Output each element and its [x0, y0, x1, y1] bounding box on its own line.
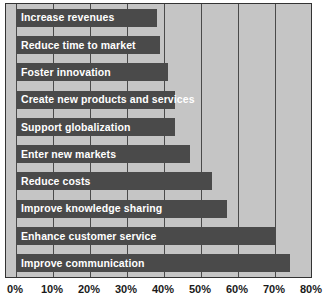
x-tick-label: 60% [226, 281, 248, 298]
x-tick-label: 10% [41, 281, 63, 298]
bar: Enter new markets [16, 145, 190, 163]
bar: Enhance customer service [16, 227, 275, 245]
bar: Foster innovation [16, 63, 168, 81]
x-tick-label: 30% [115, 281, 137, 298]
bar-row: Improve knowledge sharing [6, 195, 311, 222]
bar: Reduce time to market [16, 36, 160, 54]
bar: Improve knowledge sharing [16, 200, 227, 218]
bar-row: Reduce time to market [6, 31, 311, 58]
bar-label: Reduce time to market [21, 40, 136, 51]
bar-label: Enter new markets [21, 149, 116, 160]
bar-row: Enter new markets [6, 141, 311, 168]
bar-label: Increase revenues [21, 12, 114, 23]
bar-label: Reduce costs [21, 176, 90, 187]
bar-chart: Increase revenuesReduce time to marketFo… [0, 0, 324, 298]
bar-label: Support globalization [21, 122, 130, 133]
bar-row: Create new products and services [6, 86, 311, 113]
bar-row: Support globalization [6, 113, 311, 140]
bar: Create new products and services [16, 91, 175, 109]
bar: Improve communication [16, 254, 290, 272]
bar-row: Enhance customer service [6, 222, 311, 249]
x-tick-label: 40% [152, 281, 174, 298]
x-tick-label: 50% [189, 281, 211, 298]
bar: Increase revenues [16, 9, 157, 27]
x-tick-label: 70% [263, 281, 285, 298]
x-tick-label: 20% [78, 281, 100, 298]
bar-label: Improve knowledge sharing [21, 203, 162, 214]
x-tick-label: 80% [300, 281, 322, 298]
bar-row: Foster innovation [6, 59, 311, 86]
bar-label: Improve communication [21, 258, 144, 269]
bar-row: Improve communication [6, 250, 311, 277]
x-axis-tick-labels: 0%10%20%30%40%50%60%70%80% [0, 281, 324, 298]
plot-area: Increase revenuesReduce time to marketFo… [5, 3, 312, 278]
bar-label: Create new products and services [21, 94, 195, 105]
bar: Reduce costs [16, 172, 212, 190]
bar-label: Foster innovation [21, 67, 111, 78]
bar: Support globalization [16, 118, 175, 136]
bar-row: Reduce costs [6, 168, 311, 195]
x-tick-label: 0% [7, 281, 23, 298]
bar-label: Enhance customer service [21, 231, 156, 242]
bar-row: Increase revenues [6, 4, 311, 31]
bars-container: Increase revenuesReduce time to marketFo… [6, 4, 311, 277]
